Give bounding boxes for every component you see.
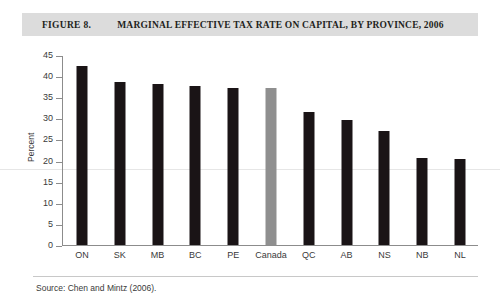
y-tick-label: 10 [43, 198, 53, 208]
y-tick-label: 20 [43, 156, 53, 166]
x-axis-line [62, 245, 478, 246]
bar [455, 159, 466, 245]
x-tick-label: BC [189, 250, 202, 260]
y-tick-mark [56, 77, 62, 78]
figure-number: FIGURE 8. [42, 20, 91, 30]
y-tick-label: 30 [43, 113, 53, 123]
y-axis-label: Percent [26, 148, 36, 162]
bar-group: QC [290, 56, 328, 245]
plot-area: 051015202530354045 ONSKMBBCPECanadaQCABN… [62, 56, 478, 246]
y-tick-mark [56, 140, 62, 141]
y-tick-label: 0 [48, 240, 53, 250]
x-tick-label: NL [454, 250, 466, 260]
bar [190, 86, 201, 245]
bar-group: Canada [252, 56, 290, 245]
y-tick-mark [56, 225, 62, 226]
y-tick-mark [56, 56, 62, 57]
footer-divider [33, 276, 478, 277]
x-tick-label: MB [151, 250, 165, 260]
bar-group: NS [366, 56, 404, 245]
x-tick-label: PE [227, 250, 239, 260]
figure-title-band: FIGURE 8. MARGINAL EFFECTIVE TAX RATE ON… [22, 13, 478, 36]
bar-series: ONSKMBBCPECanadaQCABNSNBNL [63, 56, 478, 245]
source-note: Source: Chen and Mintz (2006). [36, 283, 156, 293]
figure-title: MARGINAL EFFECTIVE TAX RATE ON CAPITAL, … [117, 20, 444, 30]
bar-group: SK [101, 56, 139, 245]
x-tick-label: NB [416, 250, 429, 260]
y-tick-mark [56, 119, 62, 120]
y-tick-mark [56, 246, 62, 247]
x-tick-label: NS [378, 250, 391, 260]
bar-group: NL [441, 56, 479, 245]
x-tick-label: SK [114, 250, 126, 260]
bar-group: ON [63, 56, 101, 245]
y-tick-label: 15 [43, 177, 53, 187]
bar-group: NB [403, 56, 441, 245]
x-tick-label: Canada [255, 250, 287, 260]
x-tick-label: AB [341, 250, 353, 260]
bar [417, 158, 428, 245]
bar-group: AB [328, 56, 366, 245]
bar [379, 131, 390, 245]
y-tick-mark [56, 162, 62, 163]
bar-group: PE [214, 56, 252, 245]
y-tick-mark [56, 98, 62, 99]
bar [114, 82, 125, 245]
bar [341, 120, 352, 245]
y-tick-mark [56, 183, 62, 184]
bar-group: MB [139, 56, 177, 245]
y-tick-label: 5 [48, 219, 53, 229]
bar [303, 112, 314, 245]
y-tick-label: 40 [43, 71, 53, 81]
bar [228, 88, 239, 245]
y-tick-label: 35 [43, 92, 53, 102]
y-tick-label: 45 [43, 50, 53, 60]
x-tick-label: ON [75, 250, 89, 260]
x-tick-label: QC [302, 250, 316, 260]
bar [265, 88, 276, 245]
bar [76, 66, 87, 245]
y-tick-label: 25 [43, 134, 53, 144]
chart-container: Percent 051015202530354045 ONSKMBBCPECan… [0, 44, 500, 270]
bar-group: BC [176, 56, 214, 245]
y-tick-mark [56, 204, 62, 205]
bar [152, 84, 163, 245]
